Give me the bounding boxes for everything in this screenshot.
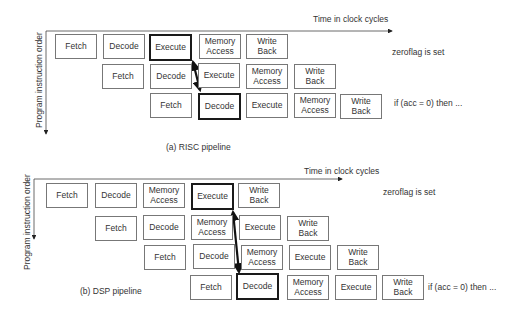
dsp-caption: (b) DSP pipeline xyxy=(80,286,142,296)
dsp-r4-fetch: Fetch xyxy=(190,275,232,300)
risc-r1-write-back: WriteBack xyxy=(246,34,288,59)
risc-r3-fetch: Fetch xyxy=(150,93,192,118)
dsp-r1-fetch: Fetch xyxy=(46,183,88,208)
dsp-condition-note: if (acc = 0) then ... xyxy=(428,282,496,292)
dsp-r1-execute-highlighted: Execute xyxy=(191,183,234,210)
risc-caption: (a) RISC pipeline xyxy=(166,142,231,152)
risc-r2-decode: Decode xyxy=(150,64,192,89)
dsp-time-axis-label: Time in clock cycles xyxy=(304,166,379,176)
dsp-r1-write-back: WriteBack xyxy=(238,183,280,208)
dsp-r1-memory-access: MemoryAccess xyxy=(143,183,185,208)
risc-order-axis-label: Program instruction order xyxy=(34,32,44,128)
dsp-r3-decode: Decode xyxy=(193,244,235,269)
dsp-r2-fetch: Fetch xyxy=(95,216,137,241)
dsp-r2-memory-access: MemoryAccess xyxy=(191,215,233,240)
risc-r3-decode-highlighted: Decode xyxy=(198,93,241,120)
risc-r2-write-back: WriteBack xyxy=(294,64,336,89)
dsp-r4-decode-highlighted: Decode xyxy=(236,273,279,300)
dsp-zeroflag-note: zeroflag is set xyxy=(383,187,435,197)
dsp-r3-memory-access: MemoryAccess xyxy=(241,245,283,270)
risc-condition-note: if (acc = 0) then ... xyxy=(394,98,462,108)
risc-r2-fetch: Fetch xyxy=(102,64,144,89)
risc-r3-memory-access: MemoryAccess xyxy=(294,93,336,118)
risc-r1-fetch: Fetch xyxy=(55,34,97,59)
risc-r2-memory-access: MemoryAccess xyxy=(246,64,288,89)
risc-r3-execute: Execute xyxy=(246,93,288,118)
dsp-r2-write-back: WriteBack xyxy=(287,216,329,241)
risc-r2-execute: Execute xyxy=(198,63,240,88)
risc-r1-decode: Decode xyxy=(103,34,145,59)
dsp-r3-execute: Execute xyxy=(289,245,331,270)
dsp-r3-write-back: WriteBack xyxy=(337,245,379,270)
dsp-r4-write-back: WriteBack xyxy=(382,275,424,300)
risc-r1-execute-highlighted: Execute xyxy=(149,34,192,61)
dsp-r1-decode: Decode xyxy=(95,183,137,208)
dsp-r3-fetch: Fetch xyxy=(144,245,186,270)
dsp-order-axis-label: Program instruction order xyxy=(22,174,32,270)
risc-zeroflag-note: zeroflag is set xyxy=(392,47,444,57)
risc-time-axis-label: Time in clock cycles xyxy=(313,14,388,24)
dsp-r4-execute: Execute xyxy=(335,275,377,300)
dsp-r2-decode: Decode xyxy=(143,215,185,240)
risc-r3-write-back: WriteBack xyxy=(340,94,382,119)
dsp-r4-memory-access: MemoryAccess xyxy=(287,275,329,300)
risc-r1-memory-access: MemoryAccess xyxy=(199,34,241,59)
dsp-r2-execute: Execute xyxy=(239,215,281,240)
